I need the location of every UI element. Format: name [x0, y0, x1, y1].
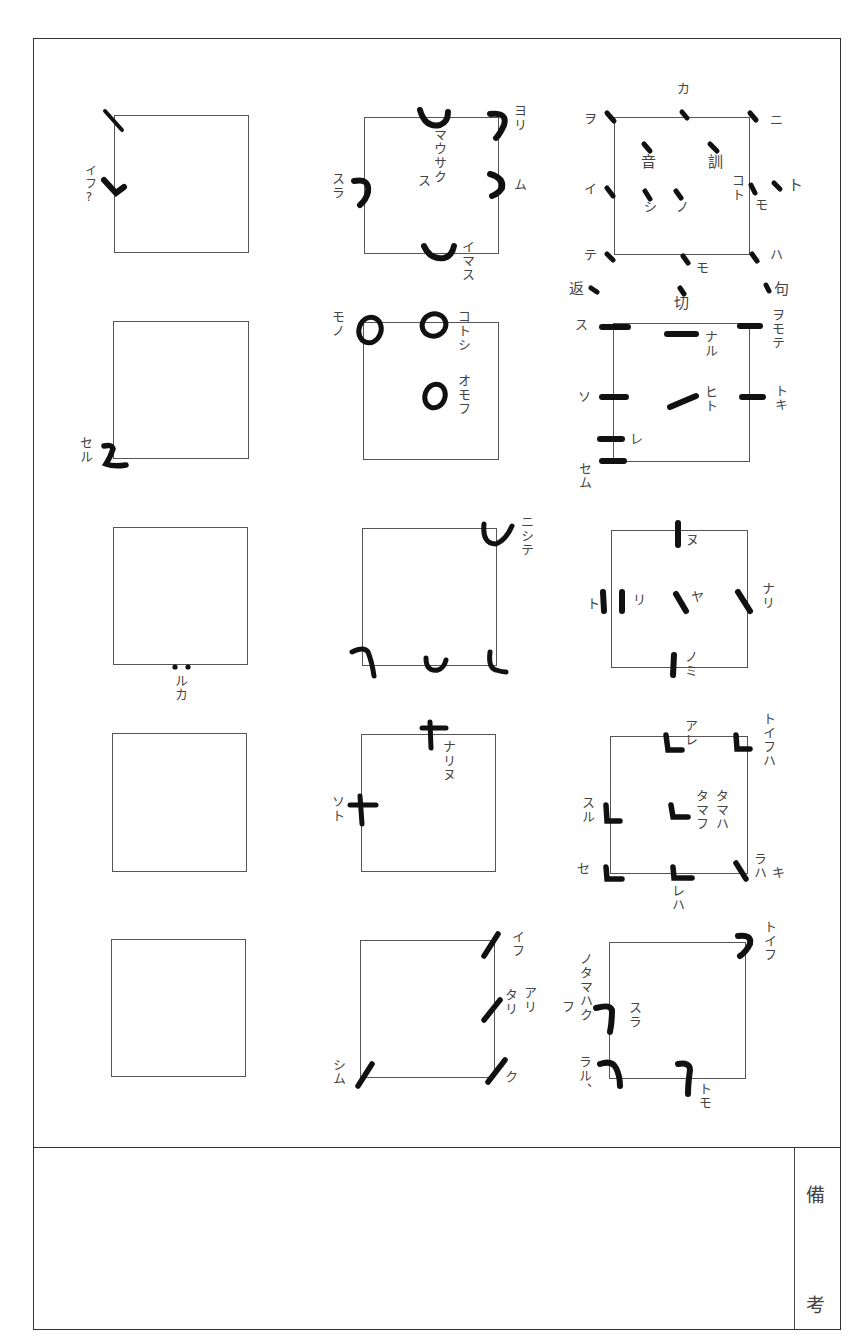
label: モ [755, 198, 768, 212]
label: ム [512, 178, 526, 192]
cell-r3c1 [113, 527, 248, 665]
cell-r5c1 [111, 939, 246, 1077]
label: ナリ [760, 582, 774, 610]
label: ト [587, 597, 600, 611]
label: ク [505, 1070, 518, 1084]
label: イマス [460, 240, 474, 282]
label: タリ [503, 988, 517, 1016]
label: ナル [703, 330, 717, 358]
label: タマフ [694, 789, 708, 831]
label: ハ [770, 248, 783, 262]
label: コト [730, 174, 744, 202]
label: ノ [676, 200, 689, 214]
label: イフ? [82, 164, 96, 205]
label: ソ [578, 390, 591, 404]
remarks-divider [33, 1147, 841, 1148]
label: ノミ [683, 650, 697, 678]
label: モ [696, 261, 709, 275]
remarks-label-1: 備 [806, 1180, 825, 1207]
label: テ [584, 248, 597, 262]
cell-r2c1 [113, 321, 249, 459]
label: シ [644, 200, 657, 214]
label: ナリヌ [441, 740, 455, 782]
label: タマハ [714, 789, 728, 831]
label: セル [78, 436, 92, 464]
label: スラ [330, 172, 344, 200]
ink-stroke [100, 105, 130, 215]
label: トイフ [762, 920, 776, 962]
label: リ [633, 593, 646, 607]
label: ノタマハク [578, 952, 592, 1022]
ink-bars [550, 290, 850, 500]
label: スラ [627, 1001, 641, 1029]
label: コトシ [456, 310, 470, 352]
label: マウサク [432, 128, 446, 184]
label: フ [560, 1000, 574, 1014]
label: ス [575, 318, 588, 332]
label: ト [788, 178, 803, 192]
label: ヨリ [512, 104, 526, 132]
remarks-column-line [794, 1147, 795, 1330]
label: スル [580, 796, 594, 824]
label: ニ [770, 113, 783, 127]
label: シム [331, 1058, 345, 1086]
label: ヤ [691, 590, 704, 604]
label: アレ [683, 719, 697, 747]
remarks-label-2: 考 [806, 1290, 825, 1317]
label: ニシテ [519, 515, 533, 557]
label: アリ [522, 986, 536, 1014]
ink-stroke [100, 440, 140, 480]
label: ヲ [584, 112, 597, 126]
label: ラル、 [577, 1055, 591, 1097]
label: ソト [330, 795, 344, 823]
label: ス [416, 174, 430, 188]
label: トイフハ [761, 712, 775, 768]
label: セム [577, 462, 591, 490]
label: 音 [641, 155, 656, 169]
label: イフ [510, 930, 524, 958]
label: カ [677, 82, 690, 96]
label: ルカ [173, 674, 187, 702]
label: セ [577, 862, 590, 876]
ink-strokes [320, 500, 550, 700]
label: レ [630, 432, 643, 446]
label: イ [584, 182, 597, 196]
label: モノ [330, 310, 344, 338]
label: 訓 [708, 155, 723, 169]
label: トキ [773, 384, 787, 412]
cell-r1c1 [114, 115, 249, 253]
label: オモフ [456, 374, 470, 416]
label: ヒト [703, 385, 717, 413]
label: ヲモテ [770, 308, 784, 350]
cell-r4c1 [112, 733, 247, 872]
label: ヌ [686, 533, 699, 547]
label: トモ [697, 1082, 711, 1110]
remarks-area [34, 1149, 793, 1329]
label: キ [772, 866, 785, 880]
label: ラハ [752, 852, 766, 880]
